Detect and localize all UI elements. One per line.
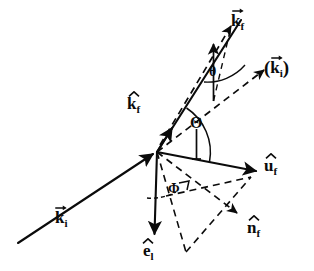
phi-glyph: Φ <box>168 181 180 196</box>
label-u-f-hat: uf <box>264 157 277 174</box>
label-k-i-vector: ki <box>55 209 68 226</box>
u-f-axis <box>157 152 256 171</box>
label-subscript: l <box>151 251 154 262</box>
phi-left-leg <box>157 152 186 252</box>
label-base: k <box>55 209 64 226</box>
close-paren: ) <box>283 58 289 77</box>
label-subscript: f <box>256 228 260 239</box>
angle-label-theta-small: θ <box>209 63 216 79</box>
k-i-vector-symbol-lower: ki <box>55 209 68 226</box>
n-f-hat-symbol: nf <box>247 219 260 236</box>
phi-base-leg <box>186 177 251 252</box>
vector-diagram-canvas <box>0 0 314 271</box>
angle-label-phi: Φ <box>168 180 180 196</box>
k-i-vector-symbol: ki <box>270 59 283 76</box>
label-subscript: f <box>240 21 244 32</box>
label-base: n <box>247 219 256 236</box>
theta-small-glyph: θ <box>209 64 216 79</box>
label-subscript: f <box>273 166 277 177</box>
k-f-hat-unit-arrow <box>157 128 172 152</box>
phi-right-angle-mark <box>179 181 189 190</box>
label-e-l-hat: el <box>143 242 154 259</box>
label-k-i-parenthesized: ( ki) <box>264 57 289 76</box>
u-f-hat-symbol: uf <box>264 157 277 174</box>
e-l-axis <box>155 152 158 234</box>
label-k-f-hat: kf <box>127 95 140 112</box>
angle-label-theta-capital: Θ <box>190 115 202 131</box>
label-subscript: i <box>64 218 67 229</box>
label-base: u <box>264 157 273 174</box>
label-base: k <box>127 95 136 112</box>
theta-capital-glyph: Θ <box>190 114 202 131</box>
label-k-f-vector: kf <box>231 12 244 29</box>
label-base: k <box>231 12 240 29</box>
e-l-hat-symbol: el <box>143 242 154 259</box>
vector-diagram-figure: kf ( ki) kf uf <box>0 0 314 271</box>
label-base: e <box>143 242 151 259</box>
label-base: k <box>270 59 279 76</box>
k-i-incident-ray <box>18 154 153 243</box>
label-n-f-hat: nf <box>247 219 260 236</box>
k-f-vector-symbol: kf <box>231 12 244 29</box>
label-subscript: f <box>136 104 140 115</box>
k-f-hat-symbol: kf <box>127 95 140 112</box>
